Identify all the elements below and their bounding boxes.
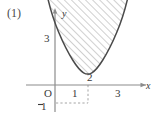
x-axis-label: x xyxy=(146,81,150,91)
x-tick-label-3: 3 xyxy=(115,88,121,99)
figure-panel: (1) y x O 3 1 1 2 3 xyxy=(0,0,158,125)
y-axis-label: y xyxy=(62,9,66,19)
x-tick-label-1: 1 xyxy=(72,88,78,99)
y-tick-label-3: 3 xyxy=(44,33,50,44)
parabola-plot xyxy=(0,0,158,125)
panel-label: (1) xyxy=(7,7,21,19)
y-tick-label-minus-1: 1 xyxy=(41,101,47,112)
x-tick-label-2: 2 xyxy=(87,72,93,83)
origin-label: O xyxy=(44,88,52,99)
